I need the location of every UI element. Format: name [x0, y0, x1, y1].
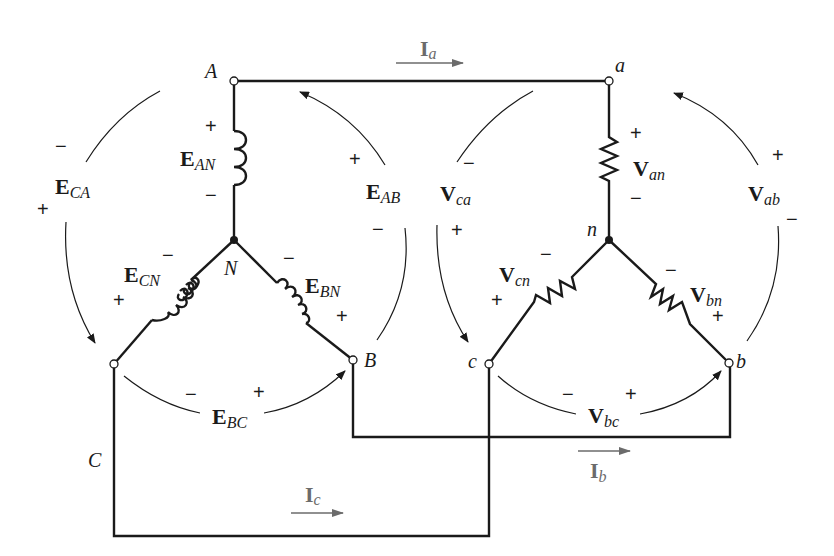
V-an-minus: −	[630, 187, 642, 209]
svg-text:Vcn: Vcn	[499, 262, 530, 289]
V-bc-minus: −	[562, 383, 574, 405]
V-ab-arc-lower	[747, 226, 779, 341]
V-ca-plus: +	[451, 219, 463, 241]
svg-text:Ib: Ib	[590, 458, 607, 485]
E-BC-arc-right	[264, 371, 345, 413]
node-C-label: C	[88, 449, 102, 471]
terminal-A	[230, 77, 238, 85]
V-bc-label: Vbc	[588, 403, 619, 430]
svg-text:Vca: Vca	[440, 181, 471, 208]
E-BC-plus: +	[253, 381, 265, 403]
terminal-C	[110, 360, 118, 368]
E-AB-label: EAB	[366, 179, 400, 206]
E-CA-label: ECA	[55, 174, 90, 201]
terminal-c	[485, 360, 493, 368]
svg-text:ECA: ECA	[55, 174, 90, 201]
svg-text:Van: Van	[633, 156, 665, 183]
E-CN-label: ECN	[124, 262, 161, 289]
source-phase-c-inductor	[114, 240, 234, 364]
V-ca-label: Vca	[440, 181, 471, 208]
current-Ib-label: Ib	[590, 458, 607, 485]
V-cn-minus: −	[540, 243, 552, 265]
V-bc-arc-right	[640, 371, 721, 414]
E-CA-minus: −	[55, 135, 67, 157]
V-bc-plus: +	[625, 383, 637, 405]
V-an-plus: +	[630, 122, 642, 144]
svg-text:EAN: EAN	[180, 146, 216, 173]
V-ca-arc-lower	[437, 225, 468, 342]
E-AN-label: EAN	[180, 146, 216, 173]
node-A-label: A	[203, 60, 218, 82]
svg-text:EAB: EAB	[366, 179, 400, 206]
V-ab-minus: −	[786, 208, 798, 230]
E-BC-label: EBC	[212, 404, 247, 431]
E-BC-minus: −	[185, 383, 197, 405]
node-b-label: b	[736, 350, 746, 372]
node-B-label: B	[364, 349, 376, 371]
E-BN-plus: +	[336, 305, 348, 327]
svg-text:Vab: Vab	[748, 181, 780, 208]
three-phase-circuit-diagram: A N B C a n b c EAN + − ECN − + EBN − + …	[0, 0, 834, 556]
V-bn-plus: +	[712, 305, 724, 327]
svg-text:Ia: Ia	[420, 36, 437, 62]
E-BN-minus: −	[283, 247, 295, 269]
current-Ia-label: Ia	[420, 36, 437, 62]
V-an-label: Van	[633, 156, 665, 183]
E-AN-minus: −	[205, 184, 217, 206]
V-ab-label: Vab	[748, 181, 780, 208]
load-neutral-node	[605, 236, 613, 244]
E-CN-minus: −	[162, 244, 174, 266]
source-neutral-node	[230, 236, 238, 244]
E-AB-minus: −	[372, 218, 384, 240]
terminal-b	[725, 359, 733, 367]
V-cn-plus: +	[491, 289, 503, 311]
node-c-label: c	[468, 350, 477, 372]
V-ab-plus: +	[772, 144, 784, 166]
load-phase-a-resistor	[601, 81, 617, 240]
svg-text:Vbc: Vbc	[588, 403, 619, 430]
terminal-B	[349, 356, 357, 364]
line-b-wire	[353, 360, 730, 437]
V-ca-minus: −	[463, 152, 475, 174]
E-CA-plus: +	[37, 198, 49, 220]
line-c-wire	[114, 364, 489, 536]
node-N-label: N	[223, 257, 239, 279]
svg-text:ECN: ECN	[124, 262, 161, 289]
E-CA-arc-lower	[66, 222, 95, 343]
E-AN-plus: +	[205, 115, 217, 137]
E-CN-plus: +	[113, 289, 125, 311]
node-a-label: a	[615, 54, 625, 76]
source-phase-a-inductor	[234, 81, 246, 240]
V-bn-minus: −	[665, 259, 677, 281]
terminal-a	[605, 77, 613, 85]
node-n-label: n	[587, 218, 597, 240]
svg-text:Ic: Ic	[305, 482, 321, 508]
V-ab-arc	[674, 93, 758, 165]
E-AB-arc	[300, 92, 385, 165]
E-CA-arc	[86, 91, 160, 162]
svg-text:EBC: EBC	[212, 404, 247, 431]
E-BN-label: EBN	[305, 273, 341, 300]
V-cn-label: Vcn	[499, 262, 530, 289]
E-AB-plus: +	[349, 148, 361, 170]
current-Ic-label: Ic	[305, 482, 321, 508]
svg-text:EBN: EBN	[305, 273, 341, 300]
E-AB-arc-lower	[377, 228, 406, 340]
